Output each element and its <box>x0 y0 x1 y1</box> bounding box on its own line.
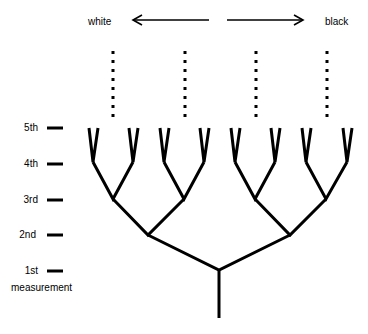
level-1st-label: 1st <box>0 265 38 277</box>
level-4th-label: 4th <box>0 158 38 170</box>
level-2nd-label: 2nd <box>0 229 36 241</box>
level-5th-label: 5th <box>0 122 38 134</box>
level-3rd-label: 3rd <box>0 194 38 206</box>
level-tick-marks <box>47 128 63 271</box>
arrow-left-icon <box>133 15 209 25</box>
tree-branches <box>89 128 352 318</box>
white-label: white <box>88 16 111 28</box>
measurement-caption: measurement <box>11 282 72 294</box>
black-label: black <box>325 16 348 28</box>
dotted-continuation-lines <box>113 51 327 117</box>
arrow-right-icon <box>227 15 303 25</box>
